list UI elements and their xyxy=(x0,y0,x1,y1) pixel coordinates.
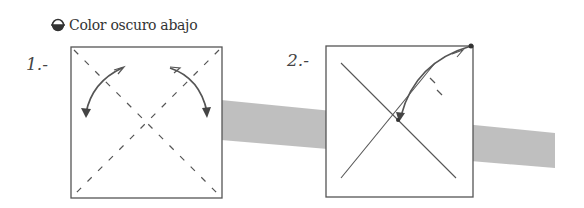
step-1-number: 1.- xyxy=(26,54,48,74)
step-2-number: 2.- xyxy=(286,50,309,70)
diagram-canvas: 1.- 2.- xyxy=(0,0,584,208)
step-1: 1.- xyxy=(26,47,222,198)
